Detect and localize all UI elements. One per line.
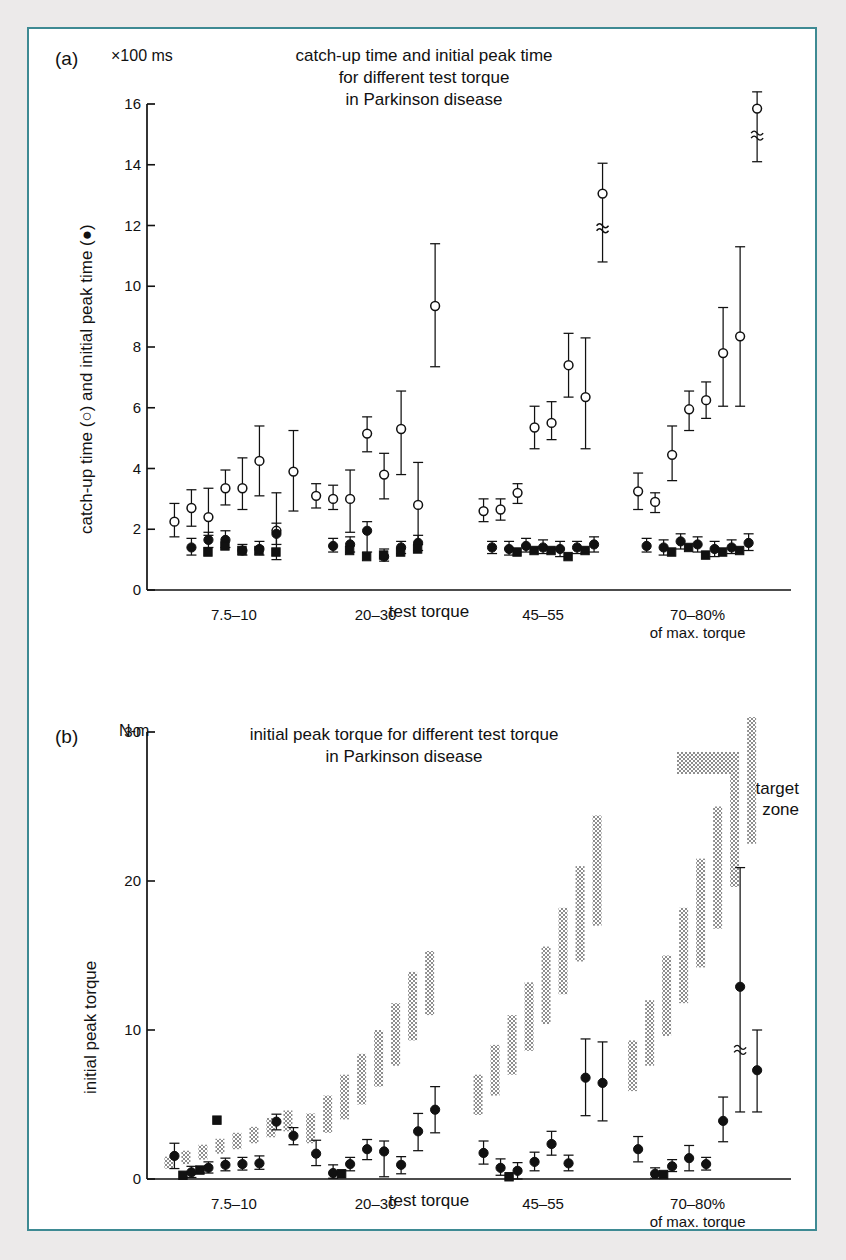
series-group [479, 163, 609, 521]
open-circle-marker [719, 349, 728, 358]
target-zone-bar [323, 1096, 332, 1133]
x-group-label-3: 70–80% of max. torque [628, 606, 768, 641]
panel-b-plot [29, 644, 819, 1233]
target-zone-bar [215, 1139, 224, 1154]
filled-circle-marker [634, 1145, 643, 1154]
filled-square-marker [718, 548, 726, 556]
open-circle-marker [431, 302, 440, 311]
open-circle-marker [479, 507, 488, 516]
target-zone-bar [306, 1113, 315, 1143]
panel-b: (b) N-m initial peak torque for differen… [29, 644, 819, 1233]
figure-page: (a) ×100 ms catch-up time and initial pe… [0, 0, 846, 1260]
target-zone-bar [508, 1015, 517, 1075]
x-group-label-1: 20–30 [306, 606, 446, 624]
open-circle-marker [238, 484, 247, 493]
y-tick-label: 10 [103, 1021, 141, 1038]
filled-circle-marker [187, 543, 196, 552]
filled-circle-marker [204, 1163, 213, 1172]
series-group [186, 523, 281, 555]
filled-circle-marker [547, 1139, 556, 1148]
series-group [328, 522, 423, 562]
target-zone-bar [645, 1000, 654, 1066]
filled-circle-marker [504, 544, 513, 553]
open-circle-marker [564, 361, 573, 370]
target-zone-bar [747, 717, 756, 844]
open-circle-marker [312, 491, 321, 500]
filled-circle-marker [187, 1168, 196, 1177]
filled-circle-marker [642, 541, 651, 550]
series-group [505, 1173, 513, 1181]
y-tick-label: 8 [103, 338, 141, 355]
x-group-label-1: 20–30 [306, 1195, 446, 1213]
open-circle-marker [702, 396, 711, 405]
open-circle-marker [736, 332, 745, 341]
filled-square-marker [530, 546, 538, 554]
y-tick-label: 14 [103, 156, 141, 173]
filled-square-marker [396, 548, 404, 556]
filled-square-marker [179, 1171, 187, 1179]
target-zone-bar [491, 1045, 500, 1096]
target-zone-bar [679, 908, 688, 1003]
y-tick-label: 0 [103, 581, 141, 598]
target-zone-bar [181, 1151, 190, 1164]
open-circle-marker [753, 104, 762, 113]
filled-square-marker [337, 1170, 345, 1178]
target-zone-bar [232, 1133, 241, 1149]
open-circle-marker [414, 501, 423, 510]
open-circle-marker [634, 487, 643, 496]
open-circle-marker [187, 504, 196, 513]
target-zone-bar [542, 947, 551, 1024]
filled-circle-marker [363, 1145, 372, 1154]
filled-circle-marker [744, 538, 753, 547]
open-circle-marker [685, 405, 694, 414]
filled-circle-marker [414, 1127, 423, 1136]
target-zone-legend-swatch [677, 752, 739, 774]
filled-square-marker [667, 548, 675, 556]
filled-circle-marker [487, 543, 496, 552]
filled-square-marker [701, 551, 709, 559]
filled-circle-marker [496, 1163, 505, 1172]
open-circle-marker [289, 467, 298, 476]
target-zone-bar [249, 1127, 258, 1143]
filled-circle-marker [538, 543, 547, 552]
filled-circle-marker [668, 1162, 677, 1171]
open-circle-marker [170, 517, 179, 526]
y-tick-label: 0 [103, 1170, 141, 1187]
filled-square-marker [684, 543, 692, 551]
series-group [337, 1170, 345, 1178]
filled-square-marker [238, 546, 246, 554]
open-circle-marker [397, 425, 406, 434]
target-zone-bar [340, 1075, 349, 1120]
target-zone-bar [593, 815, 602, 925]
filled-circle-marker [380, 1147, 389, 1156]
filled-circle-marker [530, 1157, 539, 1166]
axes [147, 732, 791, 1179]
filled-circle-marker [363, 526, 372, 535]
y-tick-label: 12 [103, 217, 141, 234]
open-circle-marker [346, 494, 355, 503]
series-group [659, 1170, 667, 1178]
open-circle-marker [496, 505, 505, 514]
filled-circle-marker [431, 1105, 440, 1114]
open-circle-marker [668, 450, 677, 459]
filled-square-marker [362, 552, 370, 560]
filled-circle-marker [572, 543, 581, 552]
y-tick-label: 20 [103, 872, 141, 889]
target-zone-bar [474, 1075, 483, 1115]
filled-circle-marker [272, 1117, 281, 1126]
target-zone-bar [713, 807, 722, 929]
filled-circle-marker [479, 1148, 488, 1157]
filled-circle-marker [346, 1160, 355, 1169]
filled-circle-marker [170, 1151, 179, 1160]
filled-square-marker [581, 546, 589, 554]
open-circle-marker [598, 189, 607, 198]
filled-square-marker [213, 1116, 221, 1124]
filled-circle-marker [753, 1066, 762, 1075]
filled-circle-marker [397, 1160, 406, 1169]
target-zone-bar [374, 1030, 383, 1087]
open-circle-marker [547, 419, 556, 428]
target-zone-bar [425, 951, 434, 1015]
filled-square-marker [735, 546, 743, 554]
filled-square-marker [345, 546, 353, 554]
x-group-label-0: 7.5–10 [164, 1195, 304, 1213]
